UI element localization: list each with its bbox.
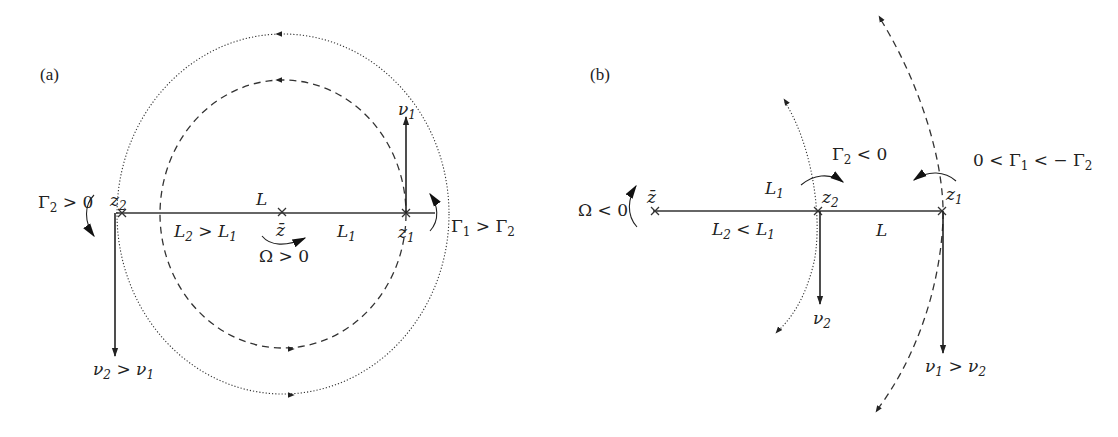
- label-z1: z1: [945, 184, 963, 207]
- circulation-arrow-g2-icon: [801, 176, 843, 185]
- label-v2: ν2: [813, 308, 831, 331]
- label-L1: L1: [764, 178, 784, 201]
- inner-orbit-dashed: [160, 80, 406, 348]
- outer-orbit-dotted: [117, 34, 449, 394]
- panel-b: (b) Ω < 0 z̄ L1 z2 z1 L2 < L1 L Γ2 < 0 0…: [578, 16, 1092, 412]
- trajectory-arrow-bottom-z2-icon: [776, 325, 783, 333]
- label-gamma1-range: 0 < Γ1 < − Γ2: [973, 150, 1092, 173]
- label-omega-positive: Ω > 0: [259, 246, 309, 266]
- label-L: L: [255, 189, 267, 209]
- label-zbar: z̄: [275, 220, 286, 240]
- label-gamma2-negative: Γ2 < 0: [832, 144, 887, 167]
- label-v2-gt-v1: ν2 > ν1: [93, 359, 154, 382]
- trajectory-z1-dashed: [877, 20, 943, 410]
- label-L2-gt-L1: L2 > L1: [173, 221, 237, 244]
- trajectory-z2-dotted: [777, 102, 817, 332]
- label-v1-gt-v2: ν1 > ν2: [925, 356, 986, 379]
- label-L: L: [875, 220, 887, 240]
- panel-label-a: (a): [40, 65, 59, 84]
- centroid-marker-icon: [278, 208, 286, 216]
- circulation-arrow-g1-icon: [914, 173, 956, 181]
- label-z2: z2: [821, 187, 839, 210]
- vortex-diagram: (a) z2 L z̄ z1 L2 > L1 L1 Ω > 0 Γ2 > 0 Γ…: [0, 0, 1118, 437]
- panel-a: (a) z2 L z̄ z1 L2 > L1 L1 Ω > 0 Γ2 > 0 Γ…: [38, 34, 515, 395]
- label-z1: z1: [397, 222, 415, 245]
- label-L1: L1: [336, 221, 356, 244]
- label-zbar: z̄: [646, 187, 657, 207]
- label-gamma2-positive: Γ2 > 0: [38, 192, 93, 215]
- rotation-arrow-omega-icon: [629, 186, 637, 227]
- panel-label-b: (b): [590, 65, 610, 84]
- label-z2: z2: [109, 190, 127, 213]
- label-gamma1-gt-gamma2: Γ1 > Γ2: [451, 216, 515, 239]
- label-L2-lt-L1: L2 < L1: [711, 219, 775, 242]
- label-v1: ν1: [398, 99, 416, 122]
- trajectory-arrow-top-z2-icon: [784, 99, 790, 108]
- label-omega-negative: Ω < 0: [578, 200, 628, 220]
